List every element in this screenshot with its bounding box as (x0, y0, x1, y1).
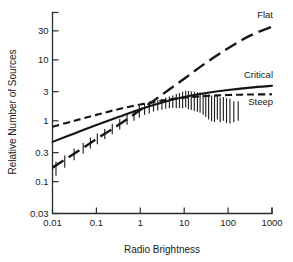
y-tick-label: 3 (43, 86, 48, 97)
x-tick-label: 1000 (261, 217, 282, 228)
series-label-critical: Critical (244, 69, 273, 80)
x-axis-tick-marks (53, 208, 273, 214)
x-axis-title: Radio Brightness (124, 244, 200, 255)
y-tick-label: 30 (38, 25, 49, 36)
y-tick-label: 0.03 (30, 208, 49, 219)
y-axis-tick-marks (53, 13, 59, 214)
x-tick-label: 10 (179, 217, 190, 228)
y-axis-title: Relative Number of Sources (7, 49, 18, 174)
y-tick-label: 1 (43, 115, 48, 126)
x-tick-label: 100 (220, 217, 236, 228)
y-axis-tick-labels: 0.030.10.3131030 (30, 25, 49, 219)
series-curve-flat (53, 27, 273, 168)
series-inline-labels: FlatCriticalSteep (244, 9, 273, 108)
errorbar-data-points (56, 91, 238, 176)
y-tick-label: 10 (38, 54, 49, 65)
y-tick-label: 0.3 (35, 147, 48, 158)
x-axis-tick-labels: 0.010.11101001000 (43, 217, 282, 228)
axis-frame (53, 13, 273, 214)
chart-canvas: 0.010.11101001000 0.030.10.3131030 FlatC… (0, 0, 293, 262)
y-tick-label: 0.1 (35, 176, 48, 187)
x-tick-label: 0.1 (90, 217, 103, 228)
series-label-flat: Flat (257, 9, 273, 20)
radio-brightness-source-count-figure: 0.010.11101001000 0.030.10.3131030 FlatC… (0, 0, 293, 262)
plot-axes (53, 13, 273, 214)
x-tick-label: 1 (138, 217, 143, 228)
series-label-steep: Steep (248, 96, 273, 107)
model-curves (53, 27, 273, 168)
